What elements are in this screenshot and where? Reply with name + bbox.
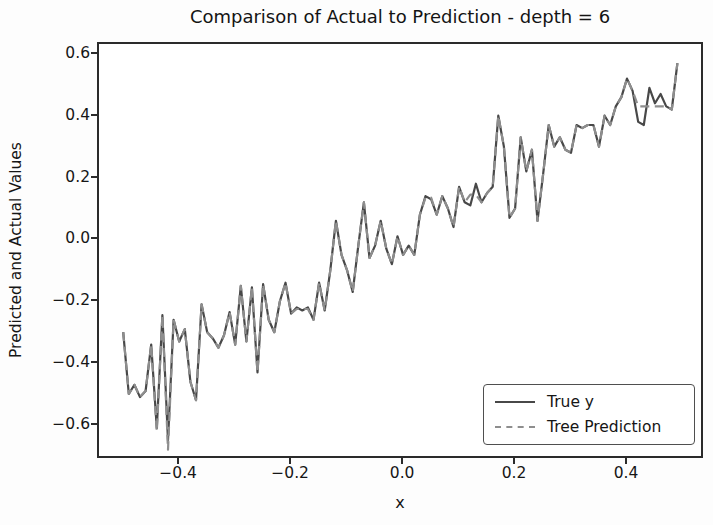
y-tick-mark <box>91 237 97 239</box>
x-axis-label: x <box>97 493 703 512</box>
x-tick-label: 0.4 <box>591 464 661 482</box>
legend: True y Tree Prediction <box>483 384 695 445</box>
y-tick-label: −0.2 <box>30 290 90 310</box>
x-tick-label: −0.2 <box>255 464 325 482</box>
legend-item-tree-prediction: Tree Prediction <box>484 416 694 438</box>
y-tick-mark <box>91 52 97 54</box>
legend-item-true-y: True y <box>484 391 694 413</box>
y-tick-label: −0.6 <box>30 414 90 434</box>
x-tick-label: −0.4 <box>143 464 213 482</box>
y-tick-label: 0.4 <box>30 105 90 125</box>
x-tick-label: 0.0 <box>367 464 437 482</box>
y-tick-mark <box>91 114 97 116</box>
y-axis-label: Predicted and Actual Values <box>7 142 25 358</box>
y-tick-mark <box>91 299 97 301</box>
y-tick-label: 0.2 <box>30 167 90 187</box>
legend-label: Tree Prediction <box>547 416 661 438</box>
y-tick-label: −0.4 <box>30 352 90 372</box>
y-tick-mark <box>91 423 97 425</box>
y-tick-label: 0.0 <box>30 228 90 248</box>
solid-line-swatch <box>495 401 535 403</box>
chart-title: Comparison of Actual to Prediction - dep… <box>97 4 703 30</box>
y-axis-label-container: Predicted and Actual Values <box>4 42 28 458</box>
legend-label: True y <box>547 391 594 413</box>
dashed-line-swatch <box>495 426 535 428</box>
x-tick-label: 0.2 <box>479 464 549 482</box>
y-tick-label: 0.6 <box>30 43 90 63</box>
y-tick-mark <box>91 361 97 363</box>
figure: Comparison of Actual to Prediction - dep… <box>0 0 713 525</box>
y-tick-mark <box>91 176 97 178</box>
